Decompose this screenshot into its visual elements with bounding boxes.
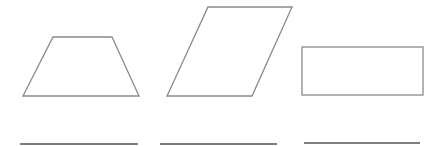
shapes-figure [0,0,440,146]
trapezoid-shape [23,37,139,96]
rectangle-shape [302,47,423,95]
parallelogram-shape [167,7,292,96]
